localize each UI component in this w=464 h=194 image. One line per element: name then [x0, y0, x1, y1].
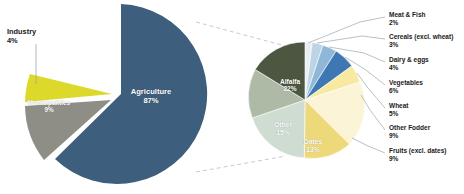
pie-label-dairy-eggs-pct: 4%	[389, 64, 429, 72]
pie-label-meat-fish-name: Meat & Fish	[389, 11, 425, 18]
pie-label-other-fodder-pct: 9%	[389, 132, 430, 140]
connector-line-bottom	[196, 156, 286, 172]
callout-line-meat-fish	[308, 17, 385, 43]
pie-label-industry-pct: 4%	[7, 37, 36, 46]
pie-label-agriculture: Agriculture 87%	[118, 88, 184, 105]
pie-label-dates: Dates 13%	[293, 138, 333, 153]
pie-label-fruits: Fruits (excl. dates) 9%	[389, 147, 446, 162]
pie-label-vegetables-name: Vegetables	[389, 79, 423, 86]
pie-charts-vector-layer	[0, 0, 464, 194]
pie-label-alfalfa-pct: 22%	[268, 85, 312, 92]
pie-label-fruits-pct: 9%	[389, 155, 446, 163]
pie-label-wheat: Wheat 5%	[389, 102, 409, 117]
pie-label-other-pct: 15%	[262, 129, 304, 137]
pie-label-dates-name: Dates	[304, 138, 323, 145]
pie-label-dates-pct: 13%	[293, 146, 333, 154]
callout-line-cereals	[317, 36, 385, 43]
pie-label-vegetables-pct: 6%	[389, 87, 423, 95]
pie-label-municipalities-name: Municipalities	[28, 99, 70, 106]
pie-label-alfalfa-name: Alfalfa	[280, 78, 300, 85]
callout-line-fruits	[352, 138, 385, 153]
pie-label-meat-fish: Meat & Fish 2%	[389, 11, 425, 26]
pie-label-industry-name: Industry	[7, 27, 36, 36]
pie-slice-industry[interactable]	[25, 74, 112, 102]
connector-line-top	[196, 22, 293, 48]
pie-label-other: Other 15%	[262, 121, 304, 136]
pie-label-municipalities-pct: 9%	[16, 106, 82, 113]
pie-label-cereals-pct: 3%	[389, 41, 453, 49]
pie-label-cereals: Cereals (excl. wheat) 3%	[389, 33, 453, 48]
pie-label-wheat-name: Wheat	[389, 102, 409, 109]
pie-label-industry: Industry 4%	[7, 28, 36, 45]
pie-label-dairy-eggs: Dairy & eggs 4%	[389, 56, 429, 71]
pie-label-vegetables: Vegetables 6%	[389, 79, 423, 94]
pie-label-cereals-name: Cereals (excl. wheat)	[389, 33, 453, 40]
pie-label-other-fodder-name: Other Fodder	[389, 124, 430, 131]
pie-label-agriculture-name: Agriculture	[131, 87, 172, 96]
pie-label-agriculture-pct: 87%	[118, 97, 184, 106]
pie-label-other-fodder: Other Fodder 9%	[389, 124, 430, 139]
pie-label-fruits-name: Fruits (excl. dates)	[389, 147, 446, 154]
chart-canvas: Agriculture 87% Municipalities 9% Indust…	[0, 0, 464, 194]
pie-label-wheat-pct: 5%	[389, 110, 409, 118]
pie-label-meat-fish-pct: 2%	[389, 19, 425, 27]
pie-label-other-name: Other	[274, 121, 292, 128]
pie-label-dairy-eggs-name: Dairy & eggs	[389, 56, 429, 63]
pie-label-alfalfa: Alfalfa 22%	[268, 78, 312, 93]
pie-label-municipalities: Municipalities 9%	[16, 99, 82, 113]
